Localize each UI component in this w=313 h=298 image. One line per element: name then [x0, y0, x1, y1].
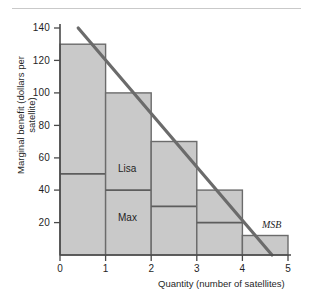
series-label-max: Max — [118, 212, 137, 223]
x-tick-label-3: 3 — [190, 263, 204, 274]
x-tick-marks — [60, 255, 288, 261]
bar-total-1 — [60, 44, 106, 255]
x-tick-label-2: 2 — [144, 263, 158, 274]
y-axis-title: Marginal benefit (dollars per satellite) — [15, 50, 37, 180]
y-tick-label-40: 40 — [24, 184, 50, 195]
x-tick-label-1: 1 — [99, 263, 113, 274]
msb-curve-label: MSB — [262, 219, 281, 230]
x-tick-label-0: 0 — [53, 263, 67, 274]
chart-figure: 140 120 100 80 60 40 20 0 1 2 3 4 5 Marg… — [0, 0, 313, 298]
y-tick-label-20: 20 — [24, 217, 50, 228]
x-axis-title: Quantity (number of satellites) — [158, 278, 285, 289]
x-tick-label-4: 4 — [235, 263, 249, 274]
y-tick-marks — [54, 28, 60, 223]
x-tick-label-5: 5 — [281, 263, 295, 274]
series-label-lisa: Lisa — [118, 163, 136, 174]
chart-plot-area — [0, 0, 313, 298]
y-tick-label-140: 140 — [24, 22, 50, 33]
